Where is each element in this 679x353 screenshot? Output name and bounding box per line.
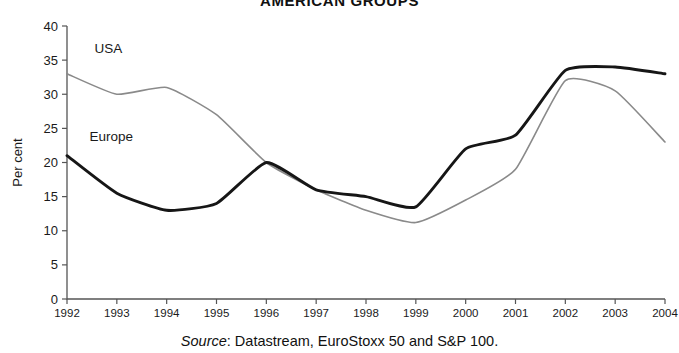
y-tick-label: 5 [51,257,58,272]
x-tick-label: 1999 [403,307,429,319]
x-tick-label: 1992 [54,307,80,319]
y-axis-title: Per cent [10,138,25,187]
axis-titles: Per cent [10,138,25,187]
x-tick-label: 1997 [303,307,329,319]
series-label-europe: Europe [89,129,133,144]
series-label-usa: USA [94,41,122,56]
x-tick-label: 2002 [553,307,579,319]
source-text: : Datastream, EuroStoxx 50 and S&P 100. [227,333,498,349]
line-chart-plot: 0510152025303540 19921993199419951996199… [0,0,679,330]
y-tick-labels: 0510152025303540 [44,19,58,307]
y-tick-label: 40 [44,19,58,34]
y-tick-label: 15 [44,189,58,204]
y-tick-label: 25 [44,121,58,136]
y-tick-label: 30 [44,87,58,102]
x-tick-label: 1993 [104,307,130,319]
x-tick-labels: 1992199319941995199619971998199920002001… [54,307,678,319]
series-lines [67,66,665,222]
source-note: Source: Datastream, EuroStoxx 50 and S&P… [0,333,679,349]
source-prefix: Source [181,333,227,349]
x-tick-label: 1998 [353,307,379,319]
x-tick-label: 2004 [652,307,678,319]
x-tick-label: 1995 [204,307,230,319]
x-tick-label: 2000 [453,307,479,319]
x-tick-label: 1996 [254,307,280,319]
x-tick-label: 2001 [503,307,529,319]
x-tick-label: 2003 [602,307,628,319]
y-tick-label: 0 [51,292,58,307]
figure-container: AMERICAN GROUPS 0510152025303540 1992199… [0,0,679,353]
y-tick-label: 35 [44,53,58,68]
series-line-usa [67,74,665,223]
y-tick-label: 10 [44,223,58,238]
y-tick-label: 20 [44,155,58,170]
x-tick-label: 1994 [154,307,180,319]
